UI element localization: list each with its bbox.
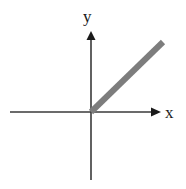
coordinate-plane-svg [0, 0, 186, 189]
x-axis-arrowhead-icon [151, 108, 161, 117]
x-axis-label: x [165, 104, 174, 121]
y-axis-arrowhead-icon [87, 31, 96, 40]
y-axis-label: y [83, 8, 92, 25]
coordinate-plane-figure: y x [0, 0, 186, 189]
ray-segment [91, 42, 163, 112]
